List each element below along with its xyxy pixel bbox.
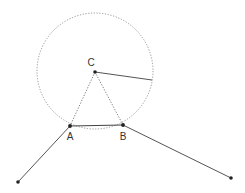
label-b: B <box>120 131 127 142</box>
endpoint-left <box>16 180 20 184</box>
segment-ca-dotted <box>70 72 95 126</box>
label-c: C <box>87 57 94 68</box>
endpoint-right <box>229 176 233 180</box>
point-c <box>93 70 97 74</box>
radius-segment <box>95 72 152 80</box>
point-b <box>121 123 125 127</box>
diagram-canvas: C A B <box>0 0 245 193</box>
segment-cb-dotted <box>95 72 123 125</box>
label-a: A <box>67 131 74 142</box>
ray-from-a <box>18 126 70 182</box>
point-a <box>68 124 72 128</box>
ray-from-b <box>123 125 231 178</box>
